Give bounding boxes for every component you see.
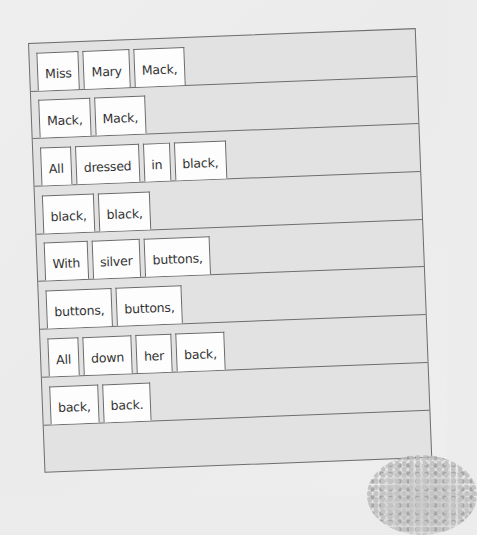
word-card: in xyxy=(143,143,171,182)
word-card: back. xyxy=(102,382,152,422)
word-card: Mack, xyxy=(94,96,147,136)
word-card: buttons, xyxy=(144,237,212,278)
word-card: buttons, xyxy=(116,285,184,326)
word-card: back, xyxy=(175,332,225,372)
word-card: black, xyxy=(42,193,95,233)
word-card: With xyxy=(44,241,89,281)
sentence-strip-sheet: Miss Mary Mack, Mack, Mack, All dressed … xyxy=(28,28,432,473)
word-card: silver xyxy=(91,239,141,279)
word-card: Mack, xyxy=(133,47,186,87)
word-card: dressed xyxy=(75,144,140,184)
word-card: All xyxy=(40,146,72,185)
word-card: down xyxy=(82,335,132,375)
word-card: All xyxy=(47,337,79,376)
word-card: her xyxy=(135,334,173,373)
word-card: black, xyxy=(98,191,151,231)
decorative-texture-image xyxy=(367,455,477,535)
word-card: Mary xyxy=(83,49,131,89)
word-card: back, xyxy=(49,384,99,424)
word-card: Miss xyxy=(36,51,80,91)
word-card: Mack, xyxy=(38,98,91,138)
word-card: black, xyxy=(174,141,227,181)
word-card: buttons, xyxy=(46,288,114,329)
